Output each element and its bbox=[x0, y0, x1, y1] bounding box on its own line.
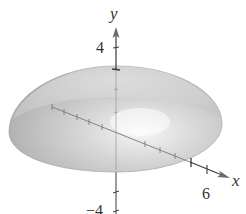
surface-plot: y 4 x 6 −4 bbox=[0, 0, 246, 214]
x-axis-outer bbox=[190, 162, 222, 175]
y-tick-top-surface bbox=[112, 69, 120, 70]
dome-highlight bbox=[110, 108, 170, 136]
y-tick-4 bbox=[113, 47, 119, 48]
y-tick-label-minus-4: −4 bbox=[86, 202, 103, 214]
dome-surface bbox=[9, 66, 222, 172]
x-axis-label: x bbox=[231, 171, 240, 190]
y-axis-label: y bbox=[108, 4, 118, 23]
y-tick-label-4: 4 bbox=[96, 39, 104, 56]
x-tick-label-6: 6 bbox=[202, 185, 210, 202]
